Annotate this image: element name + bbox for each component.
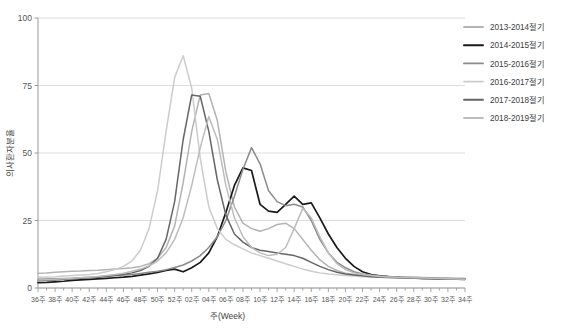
influenza-ili-line-chart: 025507510036주38주40주42주44주46주48주50주52주02주…: [0, 0, 581, 336]
y-axis-title: 의사환자분율: [5, 129, 15, 177]
y-tick-label: 0: [27, 283, 32, 293]
x-tick-label: 36주: [31, 296, 46, 304]
legend-label-1: 2013-2014절기: [490, 23, 545, 32]
x-tick-label: 12주: [270, 296, 285, 304]
y-tick-label: 50: [23, 148, 33, 158]
chart-canvas: 025507510036주38주40주42주44주46주48주50주52주02주…: [0, 0, 581, 336]
x-tick-label: 02주: [185, 296, 200, 304]
x-tick-label: 32주: [441, 296, 456, 304]
x-tick-label: 44주: [99, 296, 114, 304]
x-tick-label: 22주: [356, 296, 371, 304]
x-tick-label: 30주: [424, 296, 439, 304]
legend-label-3: 2015-2016절기: [490, 60, 545, 69]
x-tick-label: 42주: [82, 296, 97, 304]
x-tick-label: 18주: [321, 296, 336, 304]
x-tick-label: 28주: [407, 296, 422, 304]
x-tick-label: 34주: [458, 296, 473, 304]
x-tick-label: 46주: [117, 296, 132, 304]
x-tick-label: 38주: [48, 296, 63, 304]
y-tick-label: 75: [23, 81, 33, 91]
x-tick-label: 10주: [253, 296, 268, 304]
y-tick-label: 100: [18, 13, 32, 23]
y-tick-label: 25: [23, 216, 33, 226]
x-tick-label: 08주: [236, 296, 251, 304]
x-tick-label: 26주: [390, 296, 405, 304]
x-tick-label: 06주: [219, 296, 234, 304]
x-tick-label: 04주: [202, 296, 217, 304]
x-axis-title: 주(Week): [210, 311, 245, 321]
x-tick-label: 48주: [134, 296, 149, 304]
legend-label-5: 2017-2018절기: [490, 96, 545, 105]
legend-label-2: 2014-2015절기: [490, 41, 545, 50]
x-tick-label: 52주: [168, 296, 183, 304]
x-tick-label: 50주: [151, 296, 166, 304]
legend-label-4: 2016-2017절기: [490, 78, 545, 87]
x-tick-label: 20주: [339, 296, 354, 304]
legend-label-6: 2018-2019절기: [490, 114, 545, 123]
x-tick-label: 14주: [287, 296, 302, 304]
x-tick-label: 40주: [65, 296, 80, 304]
x-tick-label: 16주: [304, 296, 319, 304]
x-tick-label: 24주: [373, 296, 388, 304]
